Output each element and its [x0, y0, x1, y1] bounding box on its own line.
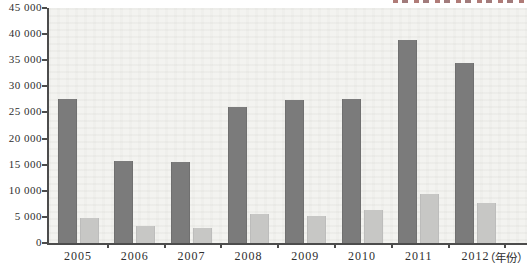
- y-axis-tick-label: 30 000: [0, 79, 42, 91]
- x-axis-tick: [107, 243, 109, 248]
- x-axis-line: [47, 243, 527, 245]
- y-axis-tick: [42, 242, 47, 244]
- bar-2005-series-1-dark-gray: [58, 99, 77, 243]
- bar-2011-series-1-dark-gray: [398, 40, 417, 243]
- clipped-legend-text: [393, 0, 525, 3]
- bar-2010-series-1-dark-gray: [342, 99, 361, 243]
- bar-2006-series-2-light-gray: [136, 226, 155, 243]
- bar-2012-series-1-dark-gray: [455, 63, 474, 243]
- y-axis-tick: [42, 138, 47, 140]
- y-axis-tick-label: 40 000: [0, 27, 42, 39]
- bar-2008-series-2-light-gray: [250, 214, 269, 243]
- y-axis-tick-label: 35 000: [0, 53, 42, 65]
- y-axis-tick-label: 10 000: [0, 184, 42, 196]
- x-axis-category-label: 2006: [121, 249, 149, 264]
- bar-2009-series-2-light-gray: [307, 216, 326, 243]
- bar-2011-series-2-light-gray: [420, 194, 439, 243]
- bar-2008-series-1-dark-gray: [228, 107, 247, 243]
- y-axis-tick-label: 45 000: [0, 1, 42, 13]
- y-axis-tick: [42, 33, 47, 35]
- x-axis-tick: [391, 243, 393, 248]
- bar-2007-series-2-light-gray: [193, 228, 212, 243]
- bar-2009-series-1-dark-gray: [285, 100, 304, 243]
- y-axis-tick-label: 25 000: [0, 105, 42, 117]
- x-axis-tick: [164, 243, 166, 248]
- x-axis-unit-label: （年份）: [484, 249, 527, 265]
- bar-2006-series-1-dark-gray: [114, 161, 133, 243]
- bar-2010-series-2-light-gray: [364, 210, 383, 243]
- x-axis-category-label: 2008: [234, 249, 262, 264]
- y-axis-tick: [42, 111, 47, 113]
- x-axis-category-label: 2010: [348, 249, 376, 264]
- bar-2012-series-2-light-gray: [477, 203, 496, 243]
- y-axis-tick-label: 15 000: [0, 158, 42, 170]
- x-axis-tick: [504, 243, 506, 248]
- y-axis-tick: [42, 7, 47, 9]
- x-axis-category-label: 2005: [64, 249, 92, 264]
- x-axis-tick: [334, 243, 336, 248]
- y-axis-tick: [42, 85, 47, 87]
- y-axis-tick-label: 5 000: [0, 210, 42, 222]
- y-axis-line: [47, 8, 49, 244]
- bar-2005-series-2-light-gray: [80, 218, 99, 243]
- y-axis-tick: [42, 216, 47, 218]
- bar-2007-series-1-dark-gray: [171, 162, 190, 243]
- bar-chart: 05 00010 00015 00020 00025 00030 00035 0…: [0, 0, 527, 273]
- y-axis-tick-label: 20 000: [0, 132, 42, 144]
- x-axis-tick: [448, 243, 450, 248]
- y-axis-tick-label: 0: [0, 236, 42, 248]
- y-axis-tick: [42, 164, 47, 166]
- x-axis-tick: [277, 243, 279, 248]
- y-axis-tick: [42, 59, 47, 61]
- x-axis-category-label: 2011: [405, 249, 433, 264]
- y-axis-tick: [42, 190, 47, 192]
- x-axis-category-label: 2007: [178, 249, 206, 264]
- x-axis-category-label: 2009: [291, 249, 319, 264]
- x-axis-tick: [220, 243, 222, 248]
